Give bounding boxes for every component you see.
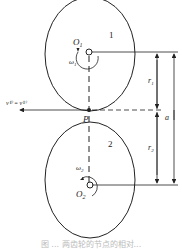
gear-2-label: 2 xyxy=(108,139,113,149)
gear-1-label: 1 xyxy=(109,30,114,40)
figure-caption: 图 ... 两齿轮的节点的相对... xyxy=(0,238,182,249)
a-label: a xyxy=(165,113,169,122)
r1-label: r1 xyxy=(148,76,154,86)
center-o1-icon xyxy=(86,49,92,55)
r2-label: r2 xyxy=(148,143,154,153)
gear-2-circle xyxy=(45,122,135,238)
omega1-label: ω1 xyxy=(69,58,76,67)
o2-label: O2 xyxy=(76,189,86,200)
omega2-label: ω2 xyxy=(76,164,84,173)
gear-1-circle xyxy=(45,0,135,111)
velocity-label: v⁽¹⁾ = v⁽²⁾ xyxy=(6,100,27,106)
o1-label: O1 xyxy=(73,37,83,48)
pitch-point-label: P xyxy=(82,114,89,124)
